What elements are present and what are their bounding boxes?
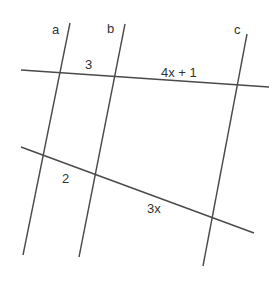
segment-lower-ab: 2 (62, 171, 69, 186)
segment-upper-ab: 3 (85, 57, 92, 72)
label-c: c (234, 22, 241, 37)
geometry-diagram: a b c 3 4x + 1 2 3x (0, 0, 275, 285)
segment-lower-bc: 3x (147, 201, 161, 216)
label-b: b (107, 21, 114, 36)
line-c (203, 34, 247, 266)
diagram-canvas: a b c 3 4x + 1 2 3x (0, 0, 275, 285)
line-a (23, 23, 70, 255)
lower-transversal (21, 147, 254, 233)
segment-upper-bc: 4x + 1 (161, 65, 197, 80)
label-a: a (52, 22, 60, 37)
